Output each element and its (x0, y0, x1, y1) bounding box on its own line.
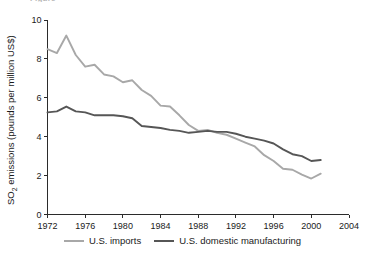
series-line-u-s-domestic-manufacturing (48, 107, 321, 161)
legend-label: U.S. domestic manufacturing (179, 236, 301, 246)
y-axis-title-suffix: emissions (pounds per million US$) (5, 35, 16, 187)
x-tick-label: 1988 (188, 221, 208, 231)
x-tick-label: 1984 (151, 221, 171, 231)
y-tick-label: 2 (36, 171, 41, 181)
legend-item[interactable]: U.S. imports (64, 236, 141, 246)
x-tick-label: 1992 (226, 221, 246, 231)
legend-item[interactable]: U.S. domestic manufacturing (154, 236, 301, 246)
x-tick-label: 2004 (339, 221, 359, 231)
chart-legend: U.S. importsU.S. domestic manufacturing (0, 236, 365, 246)
line-chart-plot: 0246810 SO2 emissions (pounds per millio… (0, 0, 365, 259)
legend-swatch-icon (154, 240, 174, 242)
legend-swatch-icon (64, 240, 84, 242)
series-line-u-s-imports (48, 36, 321, 179)
y-tick-label: 8 (36, 54, 41, 64)
x-tick-group: 197219761980198419881992199620002004 (37, 215, 359, 231)
x-tick-label: 1972 (37, 221, 57, 231)
y-tick-label: 6 (36, 93, 41, 103)
y-axis: 0246810 SO2 emissions (pounds per millio… (5, 15, 48, 220)
y-tick-label: 4 (36, 132, 41, 142)
x-tick-label: 1980 (113, 221, 133, 231)
y-axis-title-prefix: SO (5, 191, 16, 205)
data-series-group (48, 36, 321, 179)
y-tick-group: 0246810 (31, 15, 47, 220)
figure-container: Figure 0246810 SO2 emissions (pounds per… (0, 0, 365, 259)
y-tick-label: 0 (36, 210, 41, 220)
x-tick-label: 1996 (264, 221, 284, 231)
y-tick-label: 10 (31, 15, 41, 25)
y-axis-title: SO2 emissions (pounds per million US$) (5, 35, 18, 205)
x-tick-label: 1976 (75, 221, 95, 231)
x-tick-label: 2000 (301, 221, 321, 231)
legend-label: U.S. imports (89, 236, 141, 246)
x-axis: 197219761980198419881992199620002004 (37, 215, 359, 231)
